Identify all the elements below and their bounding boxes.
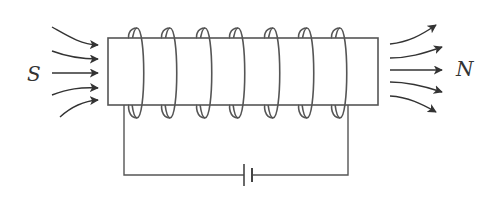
north-pole-label: N — [455, 57, 475, 81]
battery-icon — [244, 164, 252, 186]
solenoid-diagram: S N — [0, 0, 500, 202]
field-lines-out — [390, 25, 442, 112]
south-pole-label: S — [27, 62, 41, 86]
field-lines-in — [52, 27, 98, 117]
